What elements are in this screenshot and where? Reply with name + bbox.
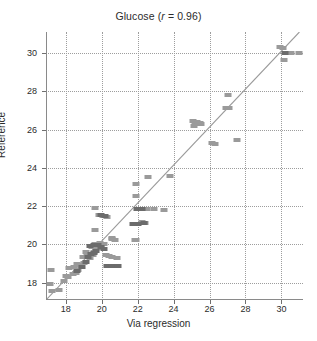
scatter-point	[91, 228, 98, 232]
scatter-point	[145, 175, 152, 179]
y-tick	[42, 53, 46, 54]
scatter-point	[131, 238, 138, 242]
x-tick-label: 20	[97, 304, 107, 314]
scatter-point	[48, 268, 55, 272]
scatter-point	[167, 174, 174, 178]
scatter-point	[288, 51, 295, 55]
chart-figure: Glucose (r = 0.96) 182022242628301820222…	[0, 0, 317, 341]
scatter-point	[132, 194, 139, 198]
gridline-vertical	[245, 32, 246, 300]
y-tick	[42, 130, 46, 131]
y-tick-label: 24	[27, 163, 37, 173]
scatter-point	[197, 122, 204, 126]
gridline-vertical	[66, 32, 67, 300]
y-tick-label: 22	[27, 201, 37, 211]
scatter-point	[60, 279, 67, 283]
scatter-point	[225, 93, 232, 97]
x-tick-label: 24	[169, 304, 179, 314]
y-tick	[42, 206, 46, 207]
y-tick-label: 18	[27, 278, 37, 288]
scatter-point	[101, 247, 108, 251]
scatter-point	[113, 256, 120, 260]
scatter-point	[211, 142, 218, 146]
gridline-vertical	[102, 32, 103, 300]
x-tick-label: 30	[276, 304, 286, 314]
gridline-horizontal	[46, 91, 303, 92]
scatter-point	[93, 249, 100, 253]
gridline-vertical	[281, 32, 282, 300]
scatter-point	[234, 138, 241, 142]
y-tick	[42, 168, 46, 169]
y-tick-label: 26	[27, 125, 37, 135]
gridline-vertical	[174, 32, 175, 300]
gridline-horizontal	[46, 53, 303, 54]
y-tick	[42, 244, 46, 245]
x-tick-label: 22	[133, 304, 143, 314]
scatter-point	[91, 206, 98, 210]
x-axis-label: Via regression	[0, 318, 317, 329]
gridline-vertical	[138, 32, 139, 300]
scatter-point	[280, 46, 287, 50]
scatter-point	[82, 260, 89, 264]
y-tick-label: 30	[27, 48, 37, 58]
y-tick	[42, 91, 46, 92]
scatter-point	[282, 51, 289, 55]
scatter-point	[73, 269, 80, 273]
gridline-horizontal	[46, 244, 303, 245]
chart-title-suffix: = 0.96)	[165, 10, 202, 22]
x-tick-label: 28	[240, 304, 250, 314]
gridline-horizontal	[46, 283, 303, 284]
x-tick-label: 26	[205, 304, 215, 314]
y-tick-label: 28	[27, 86, 37, 96]
chart-title: Glucose (r = 0.96)	[0, 10, 317, 22]
y-axis-label: Reference	[0, 112, 7, 158]
scatter-point	[191, 124, 198, 128]
plot-area: 1820222426283018202224262830	[46, 32, 303, 300]
scatter-point	[226, 106, 233, 110]
scatter-point	[150, 207, 157, 211]
gridline-horizontal	[46, 168, 303, 169]
scatter-point	[112, 238, 119, 242]
scatter-point	[139, 207, 146, 211]
chart-title-prefix: Glucose (	[115, 10, 161, 22]
y-axis-line	[46, 32, 47, 300]
gridline-horizontal	[46, 206, 303, 207]
scatter-point	[132, 182, 139, 186]
gridline-vertical	[210, 32, 211, 300]
scatter-point	[78, 265, 85, 269]
scatter-point	[295, 51, 302, 55]
scatter-point	[102, 214, 109, 218]
y-tick-label: 20	[27, 239, 37, 249]
scatter-point	[130, 222, 137, 226]
scatter-point	[281, 58, 288, 62]
scatter-point	[160, 208, 167, 212]
x-tick-label: 18	[61, 304, 71, 314]
gridline-horizontal	[46, 130, 303, 131]
scatter-point	[140, 221, 147, 225]
y-tick	[42, 283, 46, 284]
scatter-point	[55, 288, 62, 292]
scatter-point	[114, 264, 121, 268]
scatter-point	[46, 282, 53, 286]
